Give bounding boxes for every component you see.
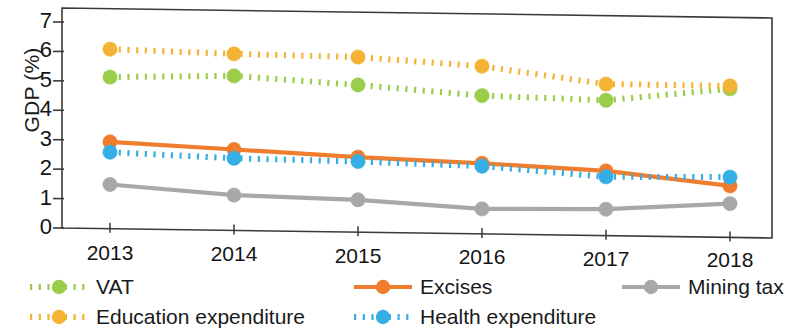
- legend-item-mining-tax[interactable]: Mining tax: [620, 272, 784, 302]
- x-tick-label: 2018: [685, 248, 775, 272]
- data-point: [475, 202, 489, 216]
- y-tick-label: 4: [26, 98, 52, 120]
- data-point: [103, 177, 117, 191]
- data-point: [599, 202, 613, 216]
- data-point: [351, 78, 365, 92]
- data-point: [475, 88, 489, 102]
- data-point: [599, 77, 613, 91]
- series-line-0: [110, 76, 730, 100]
- data-point: [351, 50, 365, 64]
- data-point: [103, 42, 117, 56]
- data-point: [599, 170, 613, 184]
- chart-figure: GDP (%) 01234567 20132014201520162017201…: [0, 0, 794, 336]
- data-point: [103, 70, 117, 84]
- data-point: [475, 59, 489, 73]
- legend-item-health-expenditure[interactable]: Health expenditure: [352, 302, 596, 332]
- chart-legend: VATEducation expenditureExcisesHealth ex…: [0, 272, 794, 336]
- legend-label: VAT: [96, 275, 134, 299]
- legend-swatch-icon: [28, 277, 90, 297]
- y-tick-label: 0: [26, 216, 52, 238]
- legend-item-education-expenditure[interactable]: Education expenditure: [28, 302, 305, 332]
- plot-canvas: [62, 12, 772, 234]
- legend-swatch-icon: [28, 307, 90, 327]
- y-tick-label: 3: [26, 128, 52, 150]
- y-tick-label: 6: [26, 39, 52, 61]
- y-tick-label: 5: [26, 69, 52, 91]
- y-tick-label: 2: [26, 157, 52, 179]
- data-point: [351, 193, 365, 207]
- series-line-4: [110, 185, 730, 210]
- legend-label: Education expenditure: [96, 305, 305, 329]
- x-tick-label: 2013: [65, 241, 155, 265]
- series-line-1: [110, 49, 730, 86]
- x-tick-label: 2015: [313, 244, 403, 268]
- legend-swatch-icon: [352, 307, 414, 327]
- x-tick-label: 2017: [561, 247, 651, 271]
- y-tick-label: 7: [26, 10, 52, 32]
- data-point: [103, 145, 117, 159]
- plot-area: [62, 12, 772, 234]
- legend-label: Health expenditure: [420, 305, 596, 329]
- legend-item-excises[interactable]: Excises: [352, 272, 492, 302]
- data-point: [227, 188, 241, 202]
- data-point: [351, 154, 365, 168]
- series-line-2: [110, 142, 730, 186]
- data-point: [227, 69, 241, 83]
- data-point: [227, 151, 241, 165]
- x-tick-label: 2016: [437, 245, 527, 269]
- data-point: [475, 159, 489, 173]
- legend-item-vat[interactable]: VAT: [28, 272, 134, 302]
- legend-swatch-icon: [620, 277, 682, 297]
- legend-swatch-icon: [352, 277, 414, 297]
- legend-label: Excises: [420, 275, 492, 299]
- data-point: [227, 47, 241, 61]
- legend-label: Mining tax: [688, 275, 784, 299]
- data-point: [723, 79, 737, 93]
- data-point: [723, 170, 737, 184]
- x-tick-label: 2014: [189, 242, 279, 266]
- y-tick-label: 1: [26, 187, 52, 209]
- data-point: [599, 93, 613, 107]
- data-point: [723, 196, 737, 210]
